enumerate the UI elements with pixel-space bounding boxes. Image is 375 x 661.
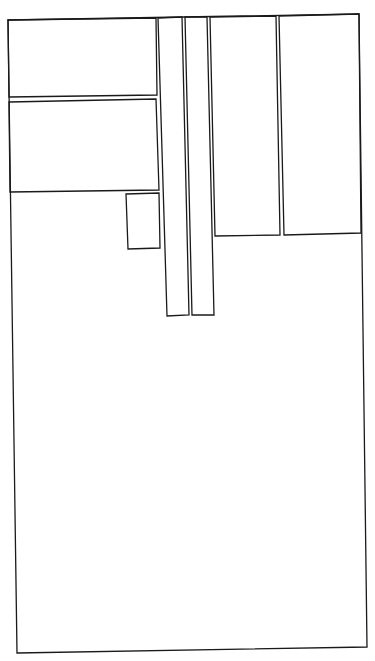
top-left-panel (8, 18, 157, 97)
middle-left-panel (9, 99, 159, 192)
small-box (126, 193, 160, 249)
vertical-strip-left (158, 17, 189, 316)
top-right-panel-b (279, 14, 361, 235)
vertical-strip-right (185, 17, 214, 315)
layout-diagram (0, 0, 375, 661)
top-right-panel-a (210, 16, 280, 236)
